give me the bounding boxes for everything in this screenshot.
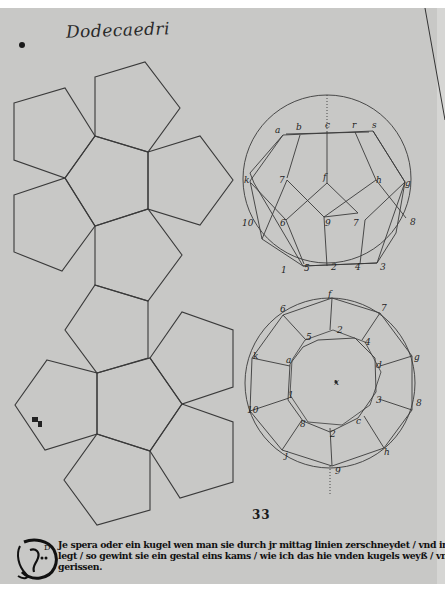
ink-blot: [32, 417, 38, 422]
svg-text:c: c: [356, 416, 361, 426]
svg-text:2: 2: [336, 325, 343, 335]
svg-text:c: c: [325, 120, 330, 130]
svg-text:k: k: [253, 351, 258, 361]
svg-text:9: 9: [335, 466, 341, 476]
svg-text:5: 5: [304, 263, 310, 273]
page-number: 33: [252, 508, 271, 522]
svg-text:10: 10: [242, 218, 254, 228]
net-face-upper-left: [14, 178, 95, 271]
svg-text:2: 2: [329, 429, 336, 439]
svg-text:1: 1: [281, 265, 287, 275]
net-face-lower-top: [65, 285, 148, 373]
caption-text: Je spera oder ein kugel wen man sie durc…: [58, 539, 438, 572]
svg-text:k: k: [244, 175, 249, 185]
svg-text:s: s: [372, 120, 377, 130]
svg-text:6: 6: [280, 304, 286, 314]
svg-text:3: 3: [376, 395, 382, 405]
svg-text:8: 8: [416, 398, 422, 408]
dodecahedron-net: [14, 62, 233, 525]
svg-text:x: x: [334, 377, 339, 387]
net-face-upper-top-left: [14, 88, 95, 178]
lower-circle-labels: f 6 7 5 2 4 k a g d 1 3 10 8 8 c 2 j h 9…: [247, 289, 422, 476]
decorated-initial: D: [14, 536, 60, 582]
svg-text:4: 4: [354, 262, 361, 272]
svg-text:g: g: [414, 352, 420, 362]
net-face-lower-left: [15, 360, 97, 450]
net-face-lower-upper-right: [150, 312, 233, 404]
caption-line-1: Je spera oder ein kugel wen man sie durc…: [58, 539, 438, 550]
svg-text:4: 4: [364, 337, 371, 347]
svg-text:d: d: [376, 360, 382, 370]
net-face-upper-bottom: [95, 209, 182, 301]
svg-text:a: a: [286, 355, 291, 365]
svg-text:3: 3: [380, 262, 386, 272]
net-face-upper-top: [95, 62, 180, 152]
svg-text:6: 6: [280, 218, 286, 228]
svg-text:8: 8: [300, 419, 306, 429]
svg-text:9: 9: [325, 218, 331, 228]
svg-text:g: g: [405, 178, 411, 188]
net-face-lower-center: [97, 358, 182, 451]
svg-text:j: j: [283, 450, 288, 460]
svg-text:r: r: [352, 120, 357, 130]
svg-text:5: 5: [306, 332, 312, 342]
svg-text:h: h: [376, 175, 382, 185]
lower-circle-projection: [245, 298, 415, 495]
svg-text:2: 2: [330, 262, 337, 272]
net-face-upper-right: [148, 136, 233, 225]
caption-line-3: gerissen.: [58, 561, 438, 572]
margin-rule-line: [425, 8, 445, 120]
svg-text:1: 1: [288, 390, 294, 400]
svg-text:7: 7: [381, 303, 387, 313]
svg-text:a: a: [275, 125, 280, 135]
caption-line-2: legt / so gewint sie ein gestal eins kam…: [58, 550, 438, 561]
geometric-figures: a b c r s k 7 f h g 10 6 9 7 8 1 5 2 4 3: [0, 0, 445, 590]
initial-letter: D: [44, 543, 50, 552]
svg-text:h: h: [384, 447, 390, 457]
svg-text:10: 10: [247, 405, 259, 415]
net-face-lower-lower-right: [150, 404, 233, 498]
net-face-lower-bottom: [64, 434, 150, 525]
svg-text:7: 7: [353, 218, 359, 228]
svg-text:b: b: [296, 122, 302, 132]
svg-text:f: f: [327, 289, 333, 299]
svg-text:8: 8: [410, 217, 416, 227]
svg-text:7: 7: [279, 175, 285, 185]
